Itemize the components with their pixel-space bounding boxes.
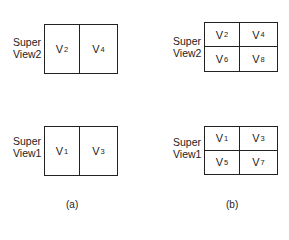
label-line2: View1	[13, 147, 41, 159]
label-line1: Super	[13, 135, 41, 147]
label-line1: Super	[13, 36, 41, 48]
superview2-label-a: Super View2	[13, 36, 41, 60]
superview1-box-a: V1 V3	[44, 126, 118, 176]
superview1-label-a: Super View1	[13, 135, 41, 159]
view-cell-v4: V4	[240, 23, 277, 47]
label-line1: Super	[173, 136, 201, 148]
view-cell-v6: V6	[205, 47, 240, 71]
view-cell-v1: V1	[205, 127, 240, 151]
caption-a: (a)	[66, 199, 78, 210]
superview1-box-b: V1 V3 V5 V7	[204, 126, 278, 175]
label-line2: View2	[13, 48, 41, 60]
view-cell-v5: V5	[205, 151, 240, 175]
superview2-box-a: V2 V4	[44, 24, 118, 74]
caption-b: (b)	[226, 199, 238, 210]
view-cell-v7: V7	[240, 151, 277, 175]
view-cell-v1: V1	[45, 127, 80, 175]
view-cell-v8: V8	[240, 47, 277, 71]
superview1-label-b: Super View1	[173, 136, 201, 160]
view-cell-v2: V2	[205, 23, 240, 47]
label-line1: Super	[173, 35, 201, 47]
view-cell-v3: V3	[80, 127, 117, 175]
superview2-box-b: V2 V4 V6 V8	[204, 22, 278, 72]
label-line2: View2	[173, 47, 201, 59]
label-line2: View1	[173, 148, 201, 160]
view-cell-v3: V3	[240, 127, 277, 151]
view-cell-v2: V2	[45, 25, 80, 73]
superview2-label-b: Super View2	[173, 35, 201, 59]
view-cell-v4: V4	[80, 25, 117, 73]
